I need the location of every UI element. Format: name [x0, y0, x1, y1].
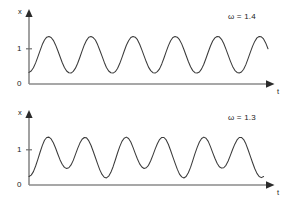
y-tick-label-zero-bottom: 0 [17, 181, 21, 189]
y-axis-label-top: x [18, 8, 22, 16]
x-axis-label-bottom: t [277, 189, 279, 197]
y-axis-arrow-top [25, 9, 32, 17]
waveform-curve-top [29, 36, 268, 73]
y-axis-arrow-bottom [25, 110, 32, 118]
plot-panel-top: x t 1 0 ω = 1.4 [0, 0, 292, 101]
y-tick-label-one-top: 1 [17, 45, 21, 53]
plot-panel-bottom: x t 1 0 ω = 1.3 [0, 101, 292, 202]
y-tick-label-one-bottom: 1 [17, 146, 21, 154]
oscillation-figure: x t 1 0 ω = 1.4 x t 1 0 ω = 1.3 [0, 0, 292, 202]
y-axis-label-bottom: x [18, 109, 22, 117]
waveform-curve-bottom [29, 137, 264, 178]
parameter-label-top: ω = 1.4 [228, 13, 256, 21]
y-tick-label-zero-top: 0 [17, 80, 21, 88]
parameter-label-bottom: ω = 1.3 [228, 114, 256, 122]
x-axis-arrow-bottom [266, 181, 275, 189]
x-axis-arrow-top [266, 80, 275, 88]
x-axis-label-top: t [277, 88, 279, 96]
